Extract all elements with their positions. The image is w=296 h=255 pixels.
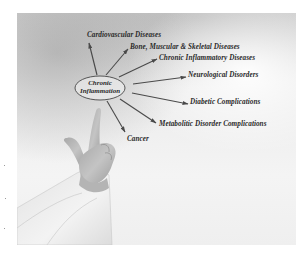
- arrow-cancer: [107, 101, 125, 132]
- branch-label-metabolic: Metabolitic Disorder Complications: [159, 121, 267, 128]
- branch-label-neurological: Neurological Disorders: [188, 72, 258, 79]
- center-line-2: Inflammation: [75, 87, 125, 95]
- scan-artifact: [4, 228, 5, 229]
- arrow-bone: [106, 49, 128, 75]
- center-node-label: Chronic Inflammation: [75, 79, 125, 95]
- branch-label-cancer: Cancer: [127, 136, 149, 143]
- branch-label-chronic-inflammatory: Chronic Inflammatory Diseases: [159, 55, 255, 62]
- center-line-1: Chronic: [75, 79, 125, 87]
- arrow-chronic-inflammatory: [119, 59, 157, 77]
- arrow-neurological: [133, 77, 186, 84]
- arrow-cardiovascular: [89, 43, 97, 75]
- arrow-metabolic: [120, 99, 156, 123]
- scan-artifact: [5, 198, 6, 199]
- branch-label-cardiovascular: Cardiovascular Diseases: [87, 32, 161, 39]
- arrow-diabetic: [132, 93, 188, 104]
- figure-canvas: Chronic Inflammation Cardiovascular Dise…: [0, 0, 296, 255]
- scan-artifact: [4, 165, 5, 166]
- branch-label-bone: Bone, Muscular & Skeletal Diseases: [130, 44, 240, 51]
- diagram-photo: Chronic Inflammation Cardiovascular Dise…: [17, 13, 296, 245]
- branch-label-diabetic: Diabetic Complications: [190, 99, 260, 106]
